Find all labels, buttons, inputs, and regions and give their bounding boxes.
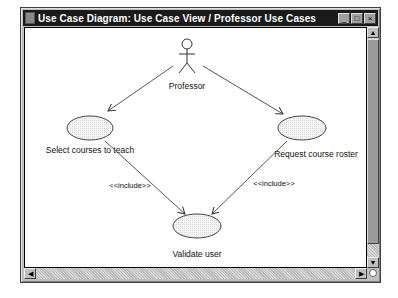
- use-case-select-courses[interactable]: Select courses to teach: [46, 116, 135, 155]
- include-label: <<include>>: [109, 181, 151, 190]
- actor-professor[interactable]: Professor: [169, 39, 206, 91]
- include-select-to-validate[interactable]: [105, 141, 185, 214]
- actor-head-icon: [182, 39, 192, 49]
- use-case-label: Validate user: [173, 249, 222, 259]
- association-select-courses[interactable]: [108, 66, 173, 111]
- use-case-label: Select courses to teach: [46, 145, 135, 155]
- include-label: <<include>>: [253, 179, 295, 188]
- association-request-roster[interactable]: [203, 66, 283, 114]
- use-case-diagram: Professor Select courses to teach Reques…: [0, 0, 398, 298]
- include-roster-to-validate[interactable]: [212, 141, 287, 214]
- use-case-validate-user[interactable]: Validate user: [173, 214, 222, 259]
- use-case-request-roster[interactable]: Request course roster: [274, 116, 358, 159]
- actor-label: Professor: [169, 81, 206, 91]
- use-case-label: Request course roster: [274, 149, 358, 159]
